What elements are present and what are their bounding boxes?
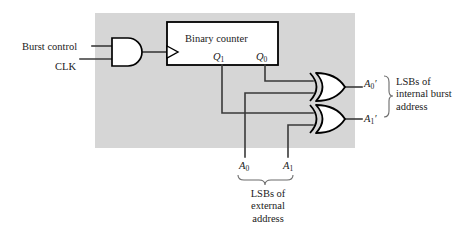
external-address-a1-label: A1	[283, 160, 293, 173]
internal-address-a1-prime-label: A1′	[364, 113, 376, 126]
external-address-a0-label: A0	[239, 160, 249, 173]
external-annotation-line-3: address	[232, 213, 304, 225]
external-annotation-line-2: external	[232, 200, 304, 212]
burst-control-label: Burst control	[22, 41, 77, 52]
bottom-brace	[238, 175, 293, 185]
internal-address-a0-prime-label: A0′	[364, 78, 376, 91]
counter-output-q1-label: Q1	[213, 51, 224, 64]
internal-annotation-line-1: LSBs of	[396, 76, 452, 88]
binary-counter-label: Binary counter	[185, 33, 248, 44]
internal-annotation-line-2: internal burst	[396, 88, 452, 100]
internal-annotation-line-3: address	[396, 101, 452, 113]
internal-burst-address-annotation: LSBs of internal burst address	[396, 76, 452, 113]
and-gate	[112, 38, 142, 66]
counter-output-q0-label: Q0	[256, 51, 267, 64]
right-brace	[384, 76, 393, 117]
clk-label: CLK	[55, 61, 76, 72]
external-address-annotation: LSBs of external address	[232, 188, 304, 225]
external-annotation-line-1: LSBs of	[232, 188, 304, 200]
